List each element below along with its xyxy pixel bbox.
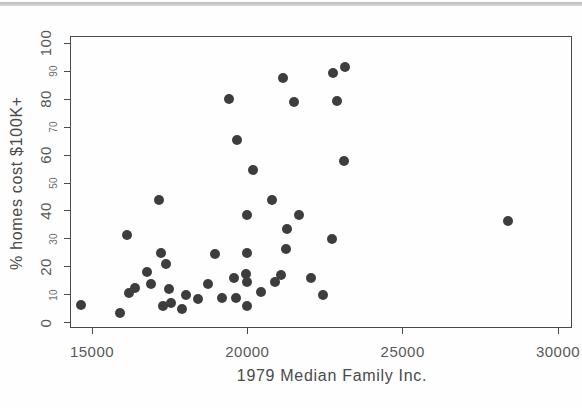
y-tick (64, 183, 70, 184)
y-tick-label: 50 (48, 177, 59, 189)
y-tick (64, 155, 70, 156)
y-tick-label: 80 (37, 90, 54, 108)
data-point (282, 224, 292, 234)
plot-area (70, 36, 572, 328)
y-tick-label: 60 (37, 146, 54, 164)
data-point (203, 279, 213, 289)
data-point (130, 283, 140, 293)
data-point (76, 300, 86, 310)
y-tick (64, 99, 70, 100)
x-tick-label: 30000 (536, 343, 580, 360)
data-point (146, 279, 156, 289)
x-tick (402, 328, 403, 334)
y-tick-label: 10 (48, 289, 59, 301)
data-point (164, 284, 174, 294)
data-point (122, 230, 132, 240)
data-point (340, 62, 350, 72)
top-rule (0, 2, 582, 6)
data-point (242, 277, 252, 287)
data-point (242, 301, 252, 311)
data-point (231, 293, 241, 303)
data-point (154, 195, 164, 205)
data-point (156, 248, 166, 258)
data-point (224, 94, 234, 104)
x-tick-label: 15000 (70, 343, 114, 360)
data-point (181, 290, 191, 300)
y-tick (64, 210, 70, 211)
data-point (248, 165, 258, 175)
y-tick-label: 70 (48, 121, 59, 133)
x-tick (558, 328, 559, 334)
data-point (327, 234, 337, 244)
y-tick (64, 294, 70, 295)
data-point (503, 216, 513, 226)
y-tick (64, 127, 70, 128)
data-point (193, 294, 203, 304)
x-tick (92, 328, 93, 334)
data-point (339, 156, 349, 166)
data-point (328, 68, 338, 78)
data-point (177, 304, 187, 314)
x-tick (247, 328, 248, 334)
data-point (232, 135, 242, 145)
y-tick (64, 238, 70, 239)
data-point (161, 259, 171, 269)
data-point (210, 249, 220, 259)
x-tick-label: 25000 (381, 343, 425, 360)
y-tick-label: 20 (37, 258, 54, 276)
y-tick-label: 40 (37, 202, 54, 220)
data-point (242, 248, 252, 258)
data-point (294, 210, 304, 220)
data-point (267, 195, 277, 205)
data-point (217, 293, 227, 303)
data-point (229, 273, 239, 283)
data-point (276, 270, 286, 280)
scatter-plot-figure: 1979 Median Family Inc. % homes cost $10… (0, 0, 582, 408)
y-tick-label: 100 (37, 30, 54, 57)
y-tick-label: 0 (37, 318, 54, 327)
y-tick (64, 71, 70, 72)
data-point (306, 273, 316, 283)
data-point (142, 267, 152, 277)
x-tick-label: 20000 (225, 343, 269, 360)
data-point (166, 298, 176, 308)
data-point (318, 290, 328, 300)
data-point (256, 287, 266, 297)
y-tick-label: 30 (48, 233, 59, 245)
y-tick (64, 266, 70, 267)
y-tick-label: 90 (48, 65, 59, 77)
y-tick (64, 43, 70, 44)
y-axis-title: % homes cost $100K+ (8, 96, 26, 270)
data-point (242, 210, 252, 220)
data-point (281, 244, 291, 254)
data-point (278, 73, 288, 83)
x-axis-title: 1979 Median Family Inc. (237, 367, 427, 385)
data-point (332, 96, 342, 106)
data-point (289, 97, 299, 107)
y-tick (64, 322, 70, 323)
data-point (115, 308, 125, 318)
